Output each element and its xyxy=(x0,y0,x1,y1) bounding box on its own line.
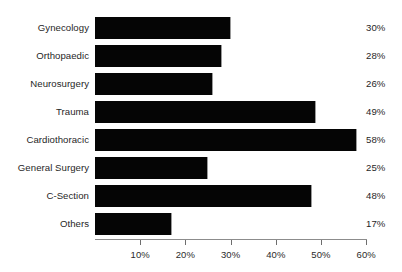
x-tick-label: 40% xyxy=(256,249,296,260)
bar xyxy=(95,129,357,151)
bar-row xyxy=(95,14,367,42)
x-tick-mark xyxy=(276,240,277,245)
bar-row xyxy=(95,211,367,239)
bar-row xyxy=(95,155,367,183)
bar-row xyxy=(95,98,367,126)
category-label: C-Section xyxy=(0,191,89,201)
category-label: General Surgery xyxy=(0,163,89,173)
x-tick-mark xyxy=(366,240,367,245)
category-label: Gynecology xyxy=(0,23,89,33)
bar-row xyxy=(95,42,367,70)
bar xyxy=(95,185,312,207)
x-tick-label: 50% xyxy=(301,249,341,260)
category-label: Others xyxy=(0,219,89,229)
value-label: 58% xyxy=(366,135,400,145)
x-tick-mark xyxy=(231,240,232,245)
bar-row xyxy=(95,70,367,98)
bar xyxy=(95,45,222,67)
bar-row xyxy=(95,126,367,154)
x-tick-label: 10% xyxy=(120,249,160,260)
value-label: 17% xyxy=(366,219,400,229)
category-label: Neurosurgery xyxy=(0,79,89,89)
x-tick-mark xyxy=(321,240,322,245)
x-tick-label: 20% xyxy=(165,249,205,260)
bar-row xyxy=(95,183,367,211)
value-label: 26% xyxy=(366,79,400,89)
bar xyxy=(95,73,213,95)
x-tick-mark xyxy=(185,240,186,245)
x-tick-mark xyxy=(140,240,141,245)
plot-area xyxy=(95,14,367,239)
category-label: Orthopaedic xyxy=(0,51,89,61)
value-label: 49% xyxy=(366,107,400,117)
value-label: 48% xyxy=(366,191,400,201)
bar xyxy=(95,157,208,179)
bar xyxy=(95,101,316,123)
value-label: 28% xyxy=(366,51,400,61)
bar-chart: GynecologyOrthopaedicNeurosurgeryTraumaC… xyxy=(0,0,402,272)
x-tick-label: 30% xyxy=(211,249,251,260)
category-label: Cardiothoracic xyxy=(0,135,89,145)
value-label: 30% xyxy=(366,23,400,33)
value-label: 25% xyxy=(366,163,400,173)
bar xyxy=(95,213,172,235)
bar xyxy=(95,17,231,39)
category-label: Trauma xyxy=(0,107,89,117)
x-tick-label: 60% xyxy=(346,249,386,260)
